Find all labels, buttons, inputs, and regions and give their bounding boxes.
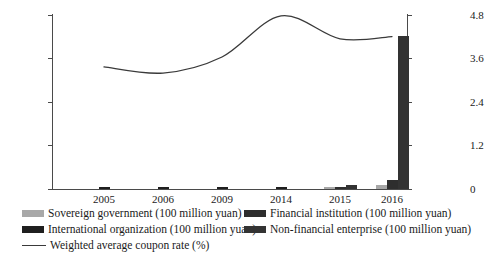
chart-legend: Sovereign government (100 million yuan) … (22, 205, 454, 253)
x-axis-label-2009: 2009 (211, 194, 233, 205)
legend-item-sovereign-government[interactable]: Sovereign government (100 million yuan) (22, 207, 244, 219)
plot-area: 0 300 600 900 1200 0 1.2 2.4 3.6 4.8 200… (52, 14, 408, 190)
x-axis-label-2006: 2006 (152, 194, 174, 205)
legend-swatch-icon-nonfinancial (244, 226, 266, 233)
legend-row-2: International organization (100 million … (22, 221, 454, 237)
x-axis-label-2016: 2016 (381, 194, 403, 205)
legend-swatch-icon-sovereign (22, 210, 44, 217)
legend-item-non-financial-enterprise[interactable]: Non-financial enterprise (100 million yu… (244, 223, 471, 235)
legend-label-coupon: Weighted average coupon rate (%) (50, 239, 209, 251)
y-axis-right-label-4: 4.8 (470, 10, 489, 21)
x-axis-label-2014: 2014 (270, 194, 292, 205)
y-axis-right-tick-1 (408, 145, 412, 146)
x-axis-label-2015: 2015 (329, 194, 351, 205)
y-axis-right-tick-0 (408, 189, 412, 190)
legend-label-nonfinancial: Non-financial enterprise (100 million yu… (270, 223, 471, 235)
legend-item-weighted-average-coupon-rate[interactable]: Weighted average coupon rate (%) (22, 239, 244, 251)
legend-line-icon-coupon (22, 245, 46, 246)
y-axis-right-tick-4 (408, 15, 412, 16)
coupon-rate-line (52, 14, 408, 190)
y-axis-right-label-2: 2.4 (470, 97, 489, 108)
legend-row-1: Sovereign government (100 million yuan) … (22, 205, 454, 221)
legend-label-financial: Financial institution (100 million yuan) (270, 207, 451, 219)
y-axis-right-label-0: 0 (470, 184, 489, 195)
legend-item-international-organization[interactable]: International organization (100 million … (22, 223, 244, 235)
legend-swatch-icon-international (22, 226, 44, 233)
y-axis-right-label-3: 3.6 (470, 53, 489, 64)
legend-label-sovereign: Sovereign government (100 million yuan) (48, 207, 242, 219)
x-axis-label-2005: 2005 (93, 194, 115, 205)
legend-row-3: Weighted average coupon rate (%) (22, 237, 454, 253)
y-axis-right-tick-2 (408, 102, 412, 103)
y-axis-right-label-1: 1.2 (470, 140, 489, 151)
y-axis-right-tick-3 (408, 58, 412, 59)
legend-label-international: International organization (100 million … (48, 223, 256, 235)
legend-swatch-icon-financial (244, 210, 266, 217)
legend-item-financial-institution[interactable]: Financial institution (100 million yuan) (244, 207, 451, 219)
